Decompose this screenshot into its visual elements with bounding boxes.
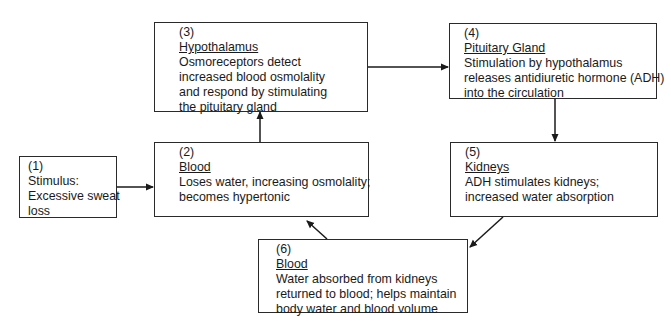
- node-number: (2): [179, 145, 370, 160]
- node-text-line: increased blood osmolality: [179, 70, 327, 85]
- node-blood-hypertonic: (2) Blood Loses water, increasing osmola…: [154, 142, 369, 217]
- node-pituitary-gland: (4) Pituitary Gland Stimulation by hypot…: [449, 23, 657, 99]
- node-text-line: Stimulus:: [28, 174, 120, 189]
- node-title: Blood: [276, 257, 456, 272]
- node-text-line: body water and blood volume: [276, 302, 456, 317]
- node-number: (5): [465, 145, 614, 160]
- node-text-line: the pituitary gland: [179, 100, 327, 115]
- node-text-line: Excessive sweat: [28, 189, 120, 204]
- node-number: (6): [276, 242, 456, 257]
- node-text-line: releases antidiuretic hormone (ADH): [464, 71, 664, 86]
- node-text-line: Osmoreceptors detect: [179, 55, 327, 70]
- node-blood-restored: (6) Blood Water absorbed from kidneys re…: [258, 239, 468, 313]
- node-number: (1): [28, 159, 120, 174]
- arrow-6-to-2: [307, 221, 327, 239]
- node-title: Pituitary Gland: [464, 41, 664, 56]
- node-title: Kidneys: [465, 160, 614, 175]
- arrow-5-to-6: [470, 217, 503, 247]
- node-text-line: into the circulation: [464, 86, 664, 101]
- node-hypothalamus: (3) Hypothalamus Osmoreceptors detect in…: [154, 22, 368, 112]
- node-text-line: returned to blood; helps maintain: [276, 287, 456, 302]
- node-number: (3): [179, 25, 327, 40]
- node-number: (4): [464, 26, 664, 41]
- node-text-line: Loses water, increasing osmolality;: [179, 175, 370, 190]
- node-text-line: Water absorbed from kidneys: [276, 272, 456, 287]
- node-text-line: Stimulation by hypothalamus: [464, 56, 664, 71]
- node-text-line: ADH stimulates kidneys;: [465, 175, 614, 190]
- node-text-line: and respond by stimulating: [179, 85, 327, 100]
- node-stimulus: (1) Stimulus: Excessive sweat loss: [19, 156, 117, 218]
- node-kidneys: (5) Kidneys ADH stimulates kidneys; incr…: [450, 142, 658, 217]
- node-title: Blood: [179, 160, 370, 175]
- node-text-line: becomes hypertonic: [179, 190, 370, 205]
- node-text-line: loss: [28, 204, 120, 219]
- node-text-line: increased water absorption: [465, 190, 614, 205]
- node-title: Hypothalamus: [179, 40, 327, 55]
